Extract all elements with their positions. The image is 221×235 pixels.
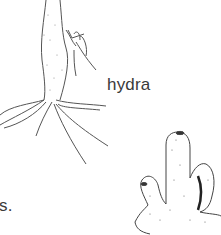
partial-label: s. bbox=[0, 196, 13, 216]
hydra-label: hydra bbox=[107, 75, 151, 95]
illustration-canvas: hydra s. bbox=[0, 0, 221, 235]
hydra-illustration bbox=[0, 0, 221, 235]
sponge-drawing bbox=[135, 131, 221, 234]
hydra-drawing bbox=[0, 0, 108, 164]
